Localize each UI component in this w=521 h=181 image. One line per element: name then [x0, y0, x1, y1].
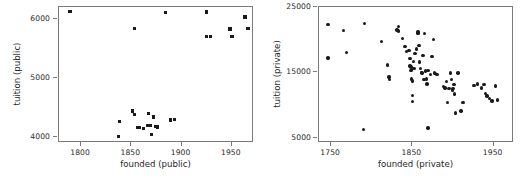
data-point [386, 63, 389, 66]
data-point [411, 79, 414, 82]
data-point [117, 135, 120, 138]
data-point [490, 99, 493, 102]
data-point [156, 125, 159, 128]
data-point [403, 45, 406, 48]
panel-public-tuition: 1800185019001950400050006000 founded (pu… [0, 0, 260, 181]
x-tick-label: 1900 [171, 148, 191, 157]
data-point [246, 27, 249, 30]
data-point [450, 78, 453, 81]
data-point [445, 80, 448, 83]
panel-private-tuition: 17501850195050001500025000 founded (priv… [260, 0, 521, 181]
data-point [413, 52, 416, 55]
y-tick-label: 5000 [291, 132, 311, 141]
data-point [419, 67, 422, 70]
data-point [426, 126, 429, 129]
data-point [446, 101, 449, 104]
data-point [133, 113, 136, 116]
x-tick-label: 1750 [320, 148, 340, 157]
plot-area-private [318, 6, 513, 142]
data-point [476, 82, 479, 85]
data-point [454, 111, 457, 114]
data-point [209, 35, 212, 38]
y-tick [313, 71, 317, 72]
data-point [68, 10, 71, 13]
data-point [496, 98, 499, 101]
data-point [342, 29, 345, 32]
data-point [205, 35, 208, 38]
scatter-plot-figure: 1800185019001950400050006000 founded (pu… [0, 0, 521, 181]
data-point [435, 73, 438, 76]
data-point [456, 71, 459, 74]
data-point [169, 118, 172, 121]
data-point [452, 83, 455, 86]
data-point [412, 60, 415, 63]
data-point [421, 54, 424, 57]
y-tick [313, 137, 317, 138]
data-point [449, 71, 452, 74]
data-point [118, 120, 121, 123]
y-tick-label: 6000 [30, 13, 50, 22]
data-point [173, 118, 176, 121]
data-point [430, 55, 433, 58]
data-point [426, 69, 429, 72]
data-point [401, 37, 404, 40]
data-point [397, 25, 400, 28]
data-point [494, 84, 497, 87]
y-tick-label: 4000 [30, 132, 50, 141]
y-tick-label: 25000 [286, 2, 311, 11]
data-point [416, 30, 419, 33]
data-point [425, 77, 428, 80]
data-point [150, 133, 153, 136]
x-axis-title-public: founded (public) [120, 159, 191, 169]
y-tick-label: 15000 [286, 67, 311, 76]
x-tick-label: 1950 [483, 148, 503, 157]
x-axis-title-private: founded (private) [378, 159, 453, 169]
data-point [230, 35, 233, 38]
data-point [425, 82, 428, 85]
data-point [152, 115, 155, 118]
data-point [326, 56, 329, 59]
data-point [453, 92, 456, 95]
x-tick-label: 1850 [402, 148, 422, 157]
data-point [407, 49, 410, 52]
data-point [417, 44, 420, 47]
data-point [164, 11, 167, 14]
data-point [387, 75, 390, 78]
plot-area-public [58, 6, 253, 142]
x-tick [231, 142, 232, 146]
data-point [397, 29, 400, 32]
data-point [380, 40, 383, 43]
x-tick [80, 142, 81, 146]
data-point [138, 126, 141, 129]
y-axis-title-private: tuition (private) [272, 40, 282, 108]
data-point [345, 51, 348, 54]
x-tick-label: 1850 [120, 148, 140, 157]
y-tick-label: 5000 [30, 72, 50, 81]
y-axis-title-public: tuition (public) [12, 43, 22, 106]
data-point [459, 109, 462, 112]
data-point [149, 124, 152, 127]
data-point [147, 112, 150, 115]
data-point [461, 101, 464, 104]
x-tick-label: 1800 [70, 148, 90, 157]
data-point [133, 27, 136, 30]
data-point [451, 87, 454, 90]
data-point [482, 83, 485, 86]
data-point [142, 127, 145, 130]
data-point [411, 100, 414, 103]
data-point [443, 86, 446, 89]
y-tick [53, 18, 57, 19]
x-tick [493, 142, 494, 146]
data-point [326, 23, 329, 26]
x-tick-label: 1950 [221, 148, 241, 157]
data-point [432, 38, 435, 41]
data-point [205, 10, 208, 13]
data-point [362, 128, 365, 131]
x-tick [181, 142, 182, 146]
y-tick [53, 77, 57, 78]
y-tick [313, 6, 317, 7]
data-point [418, 60, 421, 63]
x-tick [130, 142, 131, 146]
data-point [412, 67, 415, 70]
data-point [363, 22, 366, 25]
